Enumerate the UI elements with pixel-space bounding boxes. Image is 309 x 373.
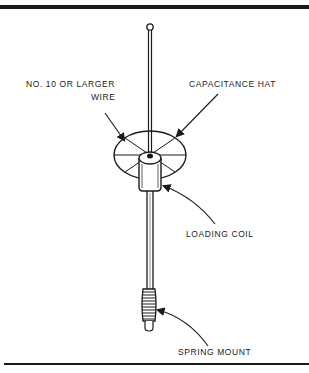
antenna-drawing (0, 0, 309, 373)
whip-rod-lower (147, 191, 153, 289)
spring-mount (142, 289, 156, 331)
wire-arrow (105, 113, 124, 140)
loading-coil-label: LOADING COIL (186, 229, 254, 240)
spring-mount-arrow (158, 310, 208, 346)
spring-mount-label: SPRING MOUNT (178, 347, 251, 358)
diagram-frame: NO. 10 OR LARGER WIRE CAPACITANCE HAT LO… (0, 0, 309, 373)
loading-coil (139, 152, 161, 191)
wire-label-line2: WIRE (91, 92, 116, 103)
wire-label-line1: NO. 10 OR LARGER (26, 79, 115, 90)
loading-coil-arrow (164, 186, 215, 224)
capacitance-hat-label: CAPACITANCE HAT (189, 79, 276, 90)
bottom-border-rule (4, 363, 309, 365)
capacitance-hat-arrow (177, 94, 218, 136)
